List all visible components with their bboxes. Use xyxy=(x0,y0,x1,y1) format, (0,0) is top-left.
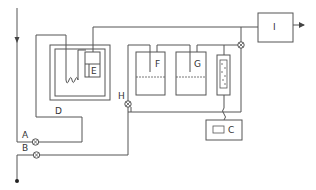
water-bath xyxy=(50,45,110,100)
label-c: C xyxy=(228,125,234,135)
schematic-diagram: A D E I B H xyxy=(0,0,316,190)
label-h: H xyxy=(118,91,125,101)
arrow-down-icon xyxy=(15,37,20,43)
label-f: F xyxy=(155,59,160,69)
meter-c xyxy=(206,120,242,140)
f-inlet-line xyxy=(128,45,150,101)
f-g-line xyxy=(157,45,190,72)
inlet-line xyxy=(15,8,20,142)
vessel-g xyxy=(176,52,206,95)
g-outlet-line xyxy=(197,45,238,55)
valve-b[interactable] xyxy=(33,152,39,158)
unit-i xyxy=(258,13,304,42)
label-g: G xyxy=(194,59,201,69)
valve-a[interactable] xyxy=(32,139,38,145)
valve-right[interactable] xyxy=(238,42,244,48)
label-b: B xyxy=(22,143,28,153)
label-a: A xyxy=(22,130,29,140)
sensor-cable xyxy=(223,95,226,120)
top-line xyxy=(93,27,258,52)
label-d: D xyxy=(55,106,62,116)
label-e: E xyxy=(91,66,97,76)
sensor-tube xyxy=(217,55,230,95)
valve-h[interactable] xyxy=(125,101,131,107)
endpoint-dot xyxy=(15,179,19,183)
valve-b-line xyxy=(15,107,128,183)
heating-coil xyxy=(66,50,86,83)
label-i: I xyxy=(273,22,276,32)
